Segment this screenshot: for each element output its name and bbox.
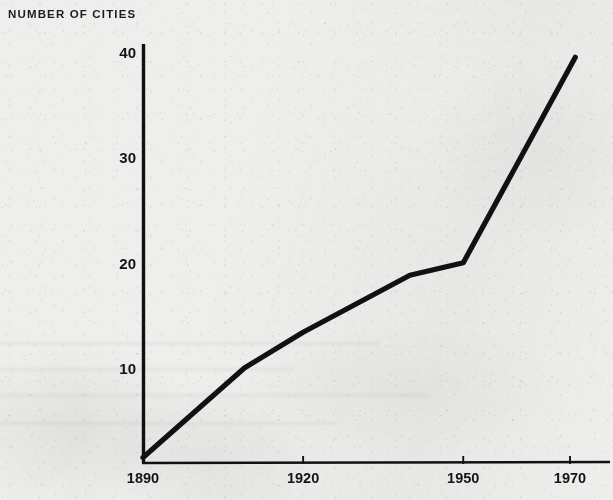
data-series-line xyxy=(143,57,575,457)
x-axis-line xyxy=(142,462,610,463)
plot-area xyxy=(0,0,613,500)
chart-figure: NUMBER OF CITIES 10203040 18901920195019… xyxy=(0,0,613,500)
